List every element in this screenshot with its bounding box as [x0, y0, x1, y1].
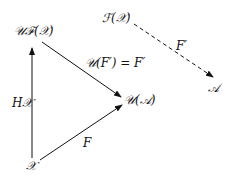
node-ufx: 𝒰ℱ(𝒳) — [14, 25, 53, 37]
node-x: 𝒳 — [26, 160, 36, 172]
node-fx: ℱ(𝒳) — [102, 12, 130, 24]
label-f: F — [83, 137, 91, 149]
label-uf: 𝒰(F′) = F′ — [85, 57, 145, 69]
node-a: 𝒜 — [208, 82, 219, 94]
node-ua: 𝒰(𝒜) — [124, 94, 155, 106]
arrow-fprime-dashed — [134, 24, 213, 77]
arrow-f — [40, 105, 122, 160]
label-h: H𝒳 — [12, 97, 32, 109]
label-fprime: F′ — [176, 40, 187, 52]
